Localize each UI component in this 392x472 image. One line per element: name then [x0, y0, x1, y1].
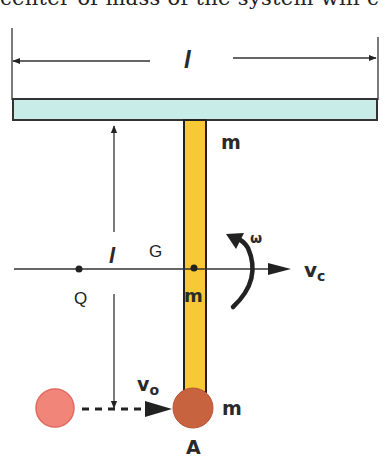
center-of-mass-dot [191, 265, 198, 272]
cropped-caption-text: center of mass of the system will c [0, 0, 392, 10]
top-length-dimension: l [12, 28, 378, 100]
point-a-label: A [186, 436, 201, 458]
velocity-c-symbol: v [304, 258, 317, 282]
vo-arrowhead [145, 401, 172, 417]
vertical-rod [184, 120, 206, 392]
rod-center-mass-label: m [184, 285, 203, 306]
horizontal-bar [13, 99, 377, 120]
velocity-c-label: vc [304, 258, 325, 284]
vc-arrowhead [268, 263, 291, 275]
physics-diagram: l m l Q G m ω vc vo [0, 0, 392, 472]
velocity-o-label: vo [137, 373, 159, 398]
incoming-ball [36, 389, 74, 427]
velocity-o-subscript: o [149, 382, 159, 398]
ball-mass-label: m [222, 397, 242, 419]
vertical-length-dimension: l [109, 126, 116, 408]
ball-a [173, 388, 213, 428]
velocity-o-symbol: v [137, 373, 150, 395]
diagram-canvas: center of mass of the system will c l m [0, 0, 392, 472]
velocity-c-subscript: c [317, 268, 325, 284]
vertical-length-label: l [109, 243, 116, 268]
top-length-label: l [184, 46, 192, 73]
omega-label: ω [250, 230, 262, 246]
center-of-mass-label: G [149, 242, 162, 261]
rod-mass-label: m [221, 131, 241, 153]
point-q-dot [76, 266, 83, 273]
point-q-label: Q [74, 289, 87, 308]
